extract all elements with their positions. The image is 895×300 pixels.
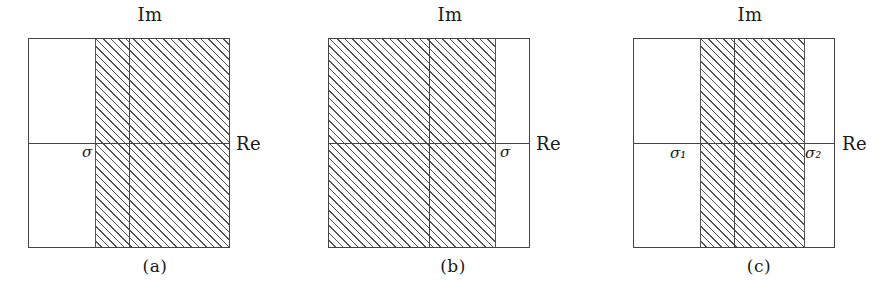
panel-c: Im σ₁ σ₂ Re (c): [600, 0, 895, 300]
caption-c: (c): [610, 258, 895, 275]
real-axis-line-b: [329, 143, 529, 144]
real-axis-line-c: [634, 143, 834, 144]
im-axis-label: Im: [1, 6, 299, 24]
sigma-glyph-b: σ: [500, 143, 510, 161]
im-axis-label: Im: [601, 6, 895, 24]
re-axis-label: Re: [236, 135, 261, 153]
sigma-label-b: σ: [500, 145, 510, 160]
panel-a: Im σ Re (a): [0, 0, 298, 300]
caption-b: (b): [304, 258, 602, 275]
real-axis-line-a: [29, 143, 229, 144]
complex-plane-box-a: [28, 38, 230, 248]
sigma2-glyph-c: σ₂: [805, 144, 821, 162]
re-axis-label: Re: [842, 135, 867, 153]
sigma1-glyph-c: σ₁: [670, 144, 686, 162]
sigma-glyph-a: σ: [82, 143, 92, 161]
sigma-label-a: σ: [82, 145, 92, 160]
complex-plane-box-c: [633, 38, 835, 248]
sigma1-label-c: σ₁: [670, 146, 686, 161]
sigma2-label-c: σ₂: [805, 146, 821, 161]
panel-b: Im σ Re (b): [300, 0, 598, 300]
im-axis-label: Im: [301, 6, 599, 24]
figure-row: Im σ Re (a) Im σ Re (: [0, 0, 895, 300]
caption-a: (a): [6, 258, 304, 275]
re-axis-label: Re: [536, 135, 561, 153]
